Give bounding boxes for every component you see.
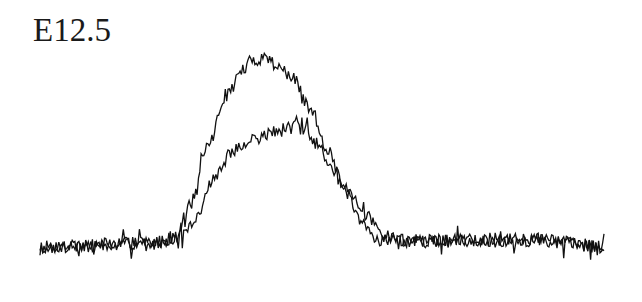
line-plot: [0, 0, 642, 302]
trace-profile-1: [40, 53, 604, 258]
